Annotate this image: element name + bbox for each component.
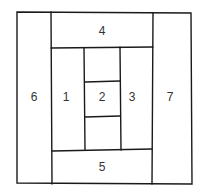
piece-label-6: 6 bbox=[31, 91, 38, 103]
center-bottom-divider bbox=[85, 116, 120, 117]
piece-label-4: 4 bbox=[99, 25, 106, 37]
bottom-band-divider bbox=[52, 149, 152, 151]
left-divider bbox=[51, 12, 52, 184]
top-band-divider bbox=[51, 47, 153, 48]
piece-label-5: 5 bbox=[99, 161, 106, 173]
center-top-divider bbox=[85, 81, 120, 82]
piece-label-7: 7 bbox=[167, 91, 174, 103]
inner-right-divider bbox=[120, 47, 121, 150]
piece-label-3: 3 bbox=[129, 91, 136, 103]
piece-label-2: 2 bbox=[99, 91, 106, 103]
inner-left-divider bbox=[84, 48, 85, 150]
right-divider bbox=[152, 13, 153, 184]
piece-label-1: 1 bbox=[63, 91, 70, 103]
